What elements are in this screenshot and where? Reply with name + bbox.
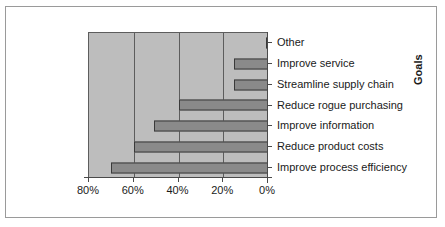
xtick-label-0: 0% bbox=[259, 184, 275, 196]
xtick-label-20: 20% bbox=[211, 184, 233, 196]
ytick-mark bbox=[267, 105, 272, 106]
xtick-label-80: 80% bbox=[77, 184, 99, 196]
xtick-mark-40 bbox=[178, 177, 179, 182]
xtick-mark-0 bbox=[267, 177, 268, 182]
xtick-mark-80 bbox=[88, 177, 89, 182]
category-label-improve-process-efficiency: Improve process efficiency bbox=[277, 161, 407, 173]
ytick-mark bbox=[267, 167, 272, 168]
xtick-label-60: 60% bbox=[122, 184, 144, 196]
bar-improve-service[interactable] bbox=[234, 59, 268, 70]
category-label-streamline-supply-chain: Streamline supply chain bbox=[277, 78, 394, 90]
category-label-reduce-rogue-purchasing: Reduce rogue purchasing bbox=[277, 99, 403, 111]
bar-improve-information[interactable] bbox=[154, 121, 268, 132]
xtick-mark-20 bbox=[222, 177, 223, 182]
category-label-improve-information: Improve information bbox=[277, 119, 374, 131]
xtick-mark-60 bbox=[133, 177, 134, 182]
bar-streamline-supply-chain[interactable] bbox=[234, 79, 268, 90]
category-label-reduce-product-costs: Reduce product costs bbox=[277, 140, 383, 152]
ytick-mark bbox=[267, 125, 272, 126]
plot-area bbox=[88, 32, 268, 178]
bar-reduce-rogue-purchasing[interactable] bbox=[179, 100, 269, 111]
bar-improve-process-efficiency[interactable] bbox=[111, 162, 268, 173]
ytick-mark bbox=[267, 42, 272, 43]
ytick-mark bbox=[267, 146, 272, 147]
y-axis-line bbox=[267, 32, 268, 183]
bar-reduce-product-costs[interactable] bbox=[134, 141, 268, 152]
chart-figure: 80% 60% 40% 20% 0% Other Improve service… bbox=[5, 6, 437, 218]
y-axis-title: Goals bbox=[412, 54, 424, 85]
ytick-mark bbox=[267, 84, 272, 85]
gridline-60 bbox=[134, 33, 135, 178]
ytick-mark bbox=[267, 63, 272, 64]
xtick-label-40: 40% bbox=[166, 184, 188, 196]
category-label-other: Other bbox=[277, 36, 305, 48]
category-label-improve-service: Improve service bbox=[277, 57, 355, 69]
